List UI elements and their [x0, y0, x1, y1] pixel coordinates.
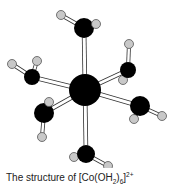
hydrogen-atom — [57, 11, 66, 20]
hydrogen-atom — [130, 115, 139, 124]
oxygen-atom — [120, 62, 136, 78]
oxygen-atom — [77, 145, 95, 163]
figure-caption: The structure of [Co(OH2)6]2+ — [6, 172, 134, 184]
hydrogen-atom — [92, 20, 101, 29]
cobalt-atom — [69, 74, 101, 106]
hydrogen-atom — [8, 60, 17, 69]
caption-charge: 2+ — [126, 171, 133, 178]
hydrogen-atom — [33, 57, 42, 66]
hydrogen-atom — [158, 112, 167, 121]
oxygen-atom — [24, 69, 40, 85]
caption-prefix: The structure of [Co(OH — [6, 172, 113, 183]
oxygen-atom — [74, 18, 94, 38]
hydrogen-atom — [125, 40, 134, 49]
hydrogen-atom — [104, 162, 113, 169]
oxygen-atom — [130, 96, 150, 116]
hydrogen-atom — [38, 133, 47, 142]
co-hexaaqua-structure — [0, 0, 178, 168]
hydrogen-atom — [45, 98, 54, 107]
